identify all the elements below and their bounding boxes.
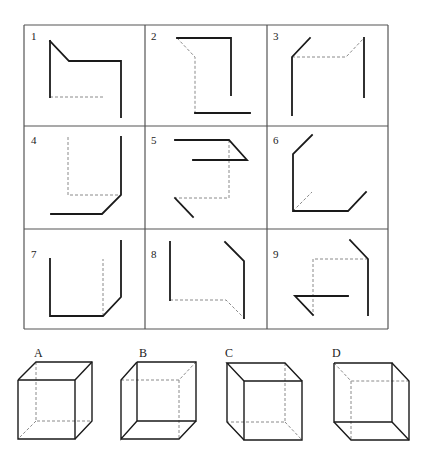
cell-number: 7: [31, 248, 37, 260]
hidden-edge: [68, 137, 121, 195]
visible-edge: [227, 363, 244, 440]
visible-edge: [18, 380, 75, 439]
question-cells: 123456789: [31, 30, 368, 318]
visible-edge: [225, 242, 244, 318]
visible-edge: [175, 140, 247, 160]
hidden-edge: [18, 421, 36, 439]
cell-5: 5: [151, 134, 247, 217]
cell-3: 3: [273, 30, 364, 115]
visible-edge: [50, 241, 121, 316]
visible-edge: [175, 198, 193, 217]
cell-8: 8: [151, 242, 244, 318]
visible-edge: [121, 421, 196, 439]
cell-6: 6: [273, 134, 366, 211]
hidden-edge: [285, 422, 302, 440]
cell-number: 8: [151, 248, 157, 260]
visible-edge: [295, 296, 348, 315]
question-grid: [24, 25, 388, 329]
option-c-cube[interactable]: C: [225, 346, 302, 440]
cell-2: 2: [151, 30, 250, 113]
hidden-edge: [292, 38, 364, 57]
cell-number: 2: [151, 30, 157, 42]
cell-number: 1: [31, 30, 37, 42]
visible-edge: [75, 362, 92, 380]
cell-7: 7: [31, 241, 121, 316]
visible-edge: [121, 362, 137, 439]
hidden-edge: [177, 38, 195, 113]
cell-number: 5: [151, 134, 157, 146]
hidden-edge: [313, 259, 368, 315]
cell-1: 1: [31, 30, 121, 117]
option-label: A: [34, 346, 43, 360]
option-label: D: [332, 346, 341, 360]
visible-edge: [392, 422, 409, 440]
visible-edge: [292, 38, 310, 115]
puzzle-figure: 123456789 ABCD: [0, 0, 436, 467]
option-d-cube[interactable]: D: [332, 346, 409, 440]
visible-edge: [350, 240, 368, 315]
option-label: C: [225, 346, 233, 360]
cell-number: 4: [31, 134, 37, 146]
visible-edge: [227, 363, 302, 381]
hidden-edge: [170, 300, 244, 318]
cell-4: 4: [31, 134, 121, 214]
cell-number: 3: [273, 30, 279, 42]
cell-number: 9: [273, 248, 279, 260]
hidden-edge: [293, 192, 312, 211]
cell-9: 9: [273, 240, 368, 315]
option-b-cube[interactable]: B: [121, 346, 196, 439]
hidden-edge: [334, 363, 409, 381]
option-a-cube[interactable]: A: [18, 346, 92, 439]
cell-number: 6: [273, 134, 279, 146]
visible-edge: [50, 41, 121, 117]
hidden-edge: [175, 140, 229, 198]
option-label: B: [139, 346, 147, 360]
answer-options: ABCD: [18, 346, 409, 440]
visible-edge: [51, 137, 121, 214]
hidden-edge: [121, 362, 196, 380]
